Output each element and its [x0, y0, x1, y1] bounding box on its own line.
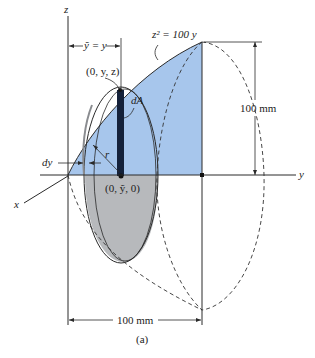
figure-caption: (a) [136, 333, 149, 346]
ybar-equation-label: ỹ = y [83, 39, 107, 51]
arrow-icon [196, 318, 201, 322]
center-point-label: (0, ỹ, 0) [105, 182, 140, 195]
x-axis [24, 176, 68, 203]
shaded-area-region [68, 42, 202, 175]
strip-dA [117, 90, 124, 176]
arrow-icon [69, 318, 74, 322]
height-dimension-label: 100 mm [240, 102, 277, 114]
dy-label: dy [42, 156, 53, 168]
axis-marker [200, 173, 204, 177]
curve-label-leader [155, 45, 158, 60]
width-dimension-label: 100 mm [117, 314, 154, 326]
y-axis-label: y [298, 168, 304, 180]
paraboloid-diagram: z y x z² = 100 y ỹ = y (0, y, z) dA r dy… [0, 0, 315, 358]
x-axis-label: x [13, 198, 19, 210]
arrow-icon [69, 44, 74, 48]
top-point-label: (0, y, z) [86, 65, 120, 78]
dA-label: dA [131, 94, 144, 106]
arrow-icon [115, 44, 120, 48]
curve-equation-label: z² = 100 y [151, 28, 197, 40]
r-label: r [105, 148, 110, 160]
center-point [119, 174, 124, 179]
arrow-icon [253, 42, 257, 47]
arrow-icon [253, 170, 257, 175]
z-axis-label: z [63, 3, 69, 15]
